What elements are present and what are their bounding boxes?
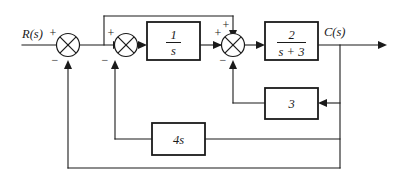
wire-integrator-to-sum3 [200, 41, 222, 49]
wire-rate-gain-to-sum2 [111, 60, 152, 139]
plant-numerator: 2 [288, 28, 294, 42]
sum2-sign-left: + [108, 26, 115, 40]
wire-sum3-to-plant [245, 41, 265, 49]
summing-junction-1: + − [50, 26, 80, 67]
plant-denominator: s + 3 [279, 45, 305, 59]
block-integrator: 1 s [147, 22, 200, 60]
block-rate-gain: 4s [152, 123, 205, 155]
sum1-sign-bottom: − [52, 53, 59, 67]
block-diagram-svg: + − + − + + − 1 s 2 [0, 0, 400, 183]
sum3-sign-bottom: − [220, 53, 227, 67]
inner-gain-label: 3 [287, 97, 294, 111]
sum2-sign-bottom: − [102, 53, 109, 67]
output-label: C(s) [324, 25, 346, 39]
block-inner-gain: 3 [265, 88, 318, 119]
block-plant: 2 s + 3 [265, 22, 318, 60]
input-label: R(s) [21, 27, 43, 41]
wire-tap-to-inner-gain [318, 99, 340, 107]
wire-inner-gain-to-sum3 [229, 60, 265, 103]
rate-gain-label: 4s [173, 133, 184, 147]
block-diagram-canvas: + − + − + + − 1 s 2 [0, 0, 400, 183]
sum3-sign-left: + [215, 26, 222, 40]
wire-plant-to-output [318, 41, 387, 49]
sum1-sign-left: + [50, 26, 57, 40]
sum3-sign-top: + [223, 18, 230, 32]
integrator-numerator: 1 [170, 28, 176, 42]
integrator-denominator: s [171, 44, 176, 58]
summing-junction-3: + + − [215, 18, 245, 67]
summing-junction-2: + − [102, 26, 138, 67]
